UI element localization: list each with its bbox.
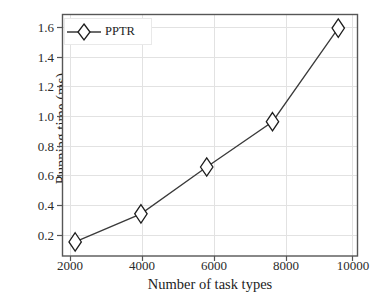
- chart-figure: Running time (ms) Number of task types 0…: [0, 0, 384, 305]
- diamond-marker-icon: [65, 22, 103, 42]
- chart-legend: PPTR: [64, 18, 152, 45]
- y-tick-marks: [57, 28, 62, 236]
- plot-area: [0, 0, 384, 305]
- x-tick-marks: [71, 256, 353, 261]
- plot-background: [62, 14, 358, 256]
- legend-label-pptr: PPTR: [103, 24, 135, 39]
